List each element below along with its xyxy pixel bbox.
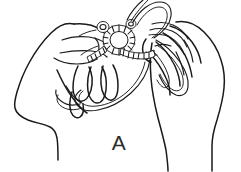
figure-illustration: A (0, 0, 241, 172)
right-hand (143, 21, 225, 171)
thread-stub-left-1 (79, 30, 96, 36)
thread-loop-top-outer (133, 2, 171, 38)
left-index-finger-top (62, 37, 105, 43)
thread-lower-loop-outer (75, 60, 150, 111)
left-hand-outline (15, 23, 74, 160)
right-palm-edge (150, 43, 168, 171)
right-hand-outline (176, 21, 224, 171)
lace-chain (120, 48, 155, 59)
figure-caption-label: A (104, 132, 134, 153)
lace-picot-loop (97, 22, 109, 33)
thread-up-left (127, 0, 143, 20)
